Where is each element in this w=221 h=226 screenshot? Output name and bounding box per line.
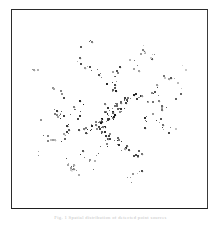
scatter-plot-frame [11,9,208,209]
scatter-plot-canvas [12,10,207,208]
figure-root: Fig. 1 Spatial distribution of detected … [0,0,221,226]
figure-caption: Fig. 1 Spatial distribution of detected … [0,215,221,221]
